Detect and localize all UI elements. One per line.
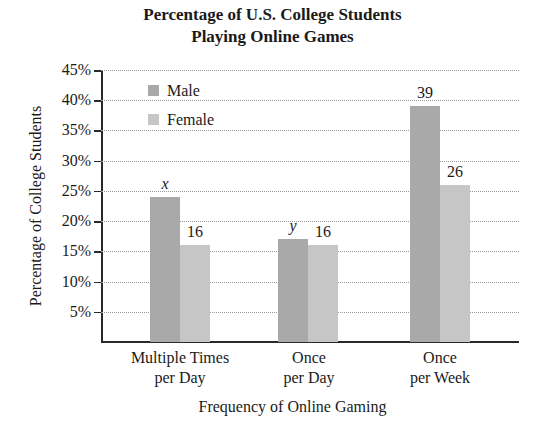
category-label-line: Multiple Times [131, 348, 229, 368]
legend-item-female: Female [148, 105, 214, 134]
category-label-line: Once [283, 348, 334, 368]
category-label-once-per-week: Once per Week [410, 348, 470, 388]
bar-female-2 [440, 185, 470, 342]
y-tick [94, 191, 101, 193]
y-tick [94, 161, 101, 163]
legend-item-male: Male [148, 76, 214, 105]
y-tick [94, 282, 101, 284]
category-label-line: per Day [131, 368, 229, 388]
y-tick [94, 130, 101, 132]
chart-title-line-1: Percentage of U.S. College Students [0, 4, 545, 26]
legend-label-female: Female [167, 111, 214, 129]
bar-male-1 [278, 239, 308, 342]
bar-value-label: 26 [440, 163, 470, 181]
legend-swatch-male [148, 85, 159, 96]
bar-male-2 [410, 106, 440, 342]
category-label-once-per-day: Once per Day [283, 348, 334, 388]
y-tick-label: 5% [41, 303, 91, 321]
chart-title: Percentage of U.S. College Students Play… [0, 4, 545, 48]
category-label-line: Once [410, 348, 470, 368]
chart-title-line-2: Playing Online Games [0, 26, 545, 48]
y-tick [94, 70, 101, 72]
bar-female-0 [180, 245, 210, 342]
y-tick [94, 251, 101, 253]
gridline [101, 161, 519, 162]
legend-swatch-female [148, 114, 159, 125]
bar-value-label: 16 [308, 223, 338, 241]
y-tick-label: 25% [41, 182, 91, 200]
y-tick-label: 20% [41, 212, 91, 230]
y-tick-label: 10% [41, 273, 91, 291]
y-tick-label: 45% [41, 61, 91, 79]
bar-value-label: 39 [410, 84, 440, 102]
y-tick [94, 312, 101, 314]
gridline [101, 70, 519, 71]
category-label-line: per Week [410, 368, 470, 388]
category-label-multiple-times-per-day: Multiple Times per Day [131, 348, 229, 388]
y-tick [94, 100, 101, 102]
bar-male-0 [150, 197, 180, 342]
y-axis-line [101, 70, 103, 342]
y-tick-label: 35% [41, 121, 91, 139]
bar-value-label: 16 [180, 223, 210, 241]
y-tick-label: 40% [41, 91, 91, 109]
legend-label-male: Male [167, 82, 200, 100]
bar-female-1 [308, 245, 338, 342]
x-axis-label: Frequency of Online Gaming [0, 398, 545, 416]
y-tick-label: 15% [41, 242, 91, 260]
bar-value-label: x [150, 175, 180, 193]
legend: Male Female [148, 76, 214, 134]
y-tick-label: 30% [41, 152, 91, 170]
category-label-line: per Day [283, 368, 334, 388]
bar-value-label: y [278, 217, 308, 235]
y-tick [94, 221, 101, 223]
